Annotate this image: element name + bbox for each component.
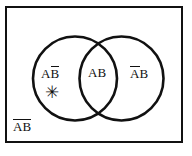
label-region-intersection: AB <box>88 66 106 79</box>
label-neither-letter-b: B <box>23 120 32 133</box>
label-b-only-letter-a-bar: A <box>130 66 140 80</box>
label-neither-letter-a: A <box>13 120 23 133</box>
venn-diagram-figure: AB AB AB AB ✳ <box>0 0 192 156</box>
label-a-only-letter-b-bar: B <box>51 66 60 80</box>
asterisk-icon: ✳ <box>45 84 59 101</box>
label-b-only-letter-b: B <box>140 67 149 80</box>
label-intersection-letter-a: A <box>88 66 98 79</box>
label-region-neither: AB <box>13 119 31 133</box>
label-a-only-letter-a: A <box>41 67 51 80</box>
label-region-b-only: AB <box>130 66 148 80</box>
label-intersection-letter-b: B <box>98 66 107 79</box>
label-region-a-only: AB <box>41 66 59 80</box>
label-neither-letters-bar: AB <box>13 119 31 133</box>
